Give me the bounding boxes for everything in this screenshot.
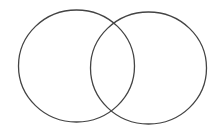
venn-svg (0, 0, 218, 130)
left-set-circle (19, 10, 135, 122)
right-set-circle (91, 12, 207, 124)
venn-diagram (0, 0, 218, 130)
